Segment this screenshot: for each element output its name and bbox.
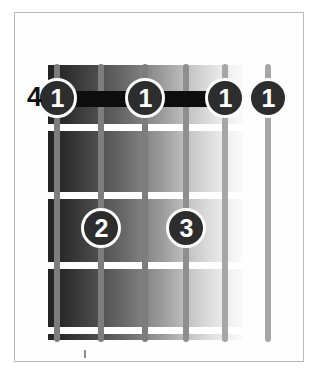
bottom-tick-mark bbox=[84, 350, 86, 358]
finger-dot-1-string-3: 1 bbox=[125, 78, 165, 118]
finger-dot-3-string-4: 3 bbox=[166, 208, 206, 248]
finger-dot-1-string-6: 1 bbox=[248, 78, 288, 118]
chord-diagram: 111123 4 bbox=[0, 0, 319, 376]
finger-dot-1-string-5: 1 bbox=[205, 78, 245, 118]
finger-dot-2-string-2: 2 bbox=[81, 208, 121, 248]
starting-fret-label: 4 bbox=[18, 84, 42, 111]
finger-dot-1-string-1: 1 bbox=[37, 78, 77, 118]
